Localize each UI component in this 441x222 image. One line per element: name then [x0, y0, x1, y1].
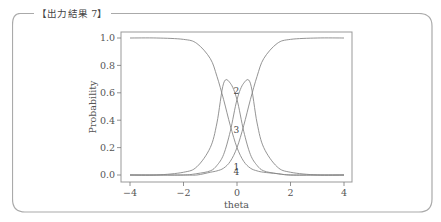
y-tick-label: 0.2	[100, 142, 115, 153]
x-tick-label: 0	[234, 187, 240, 198]
curve-category-1	[130, 38, 344, 175]
chart-axes: −4−20240.00.20.40.60.81.0thetaProbabilit…	[87, 32, 352, 210]
y-tick-label: 0.8	[100, 60, 115, 71]
plot-frame	[121, 32, 352, 182]
x-tick-label: 2	[287, 187, 293, 198]
x-axis-label: theta	[224, 199, 249, 210]
y-tick-label: 0.6	[100, 87, 115, 98]
y-tick-label: 0.4	[100, 115, 115, 126]
y-tick-label: 0.0	[100, 169, 115, 180]
curve-label-4: 4	[233, 167, 239, 177]
y-axis-label: Probability	[87, 80, 98, 133]
x-tick-label: 4	[341, 187, 347, 198]
x-tick-label: −4	[123, 187, 137, 198]
probability-chart: −4−20240.00.20.40.60.81.0thetaProbabilit…	[0, 0, 441, 222]
curve-label-2: 2	[233, 86, 239, 96]
x-tick-label: −2	[176, 187, 190, 198]
curve-label-3: 3	[233, 125, 239, 135]
curve-category-4	[130, 38, 344, 175]
chart-curves	[130, 38, 344, 175]
y-tick-label: 1.0	[100, 32, 115, 43]
